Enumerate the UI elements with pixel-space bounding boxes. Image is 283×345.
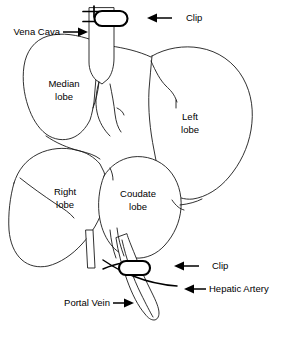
right-lobe-label-line2: lobe [56, 199, 74, 210]
clip-bottom-label: Clip [212, 260, 228, 271]
vena-cava-label: Vena Cava [14, 26, 61, 37]
clip-upper-shape [95, 11, 128, 26]
clip-top-arrowhead [147, 14, 157, 23]
portal-vein-label: Portal Vein [64, 297, 110, 308]
clip-bottom-annotation: Clip [174, 260, 228, 271]
clip-bottom-arrowhead [174, 262, 184, 271]
clip-top-annotation: Clip [147, 12, 202, 23]
vena-cava-branch-tick [117, 108, 124, 115]
median-lobe-label-line1: Median [48, 78, 79, 89]
hepatic-artery-arrowhead [184, 285, 194, 294]
hepatic-artery-annotation: Hepatic Artery [184, 283, 269, 294]
bile-duct-rect [86, 230, 95, 268]
clip-lower-shape [119, 261, 150, 275]
left-lobe-label-line1: Left [182, 111, 198, 122]
median-left-bridge [111, 46, 151, 57]
portal-vein-arrowhead [124, 299, 134, 308]
hepatic-artery-label: Hepatic Artery [209, 283, 269, 294]
coudate-lobe-label-line1: Coudate [120, 188, 156, 199]
left-lobe-label-line2: lobe [181, 124, 199, 135]
vena-cava-arrowhead [78, 28, 88, 37]
median-lobe-label-line2: lobe [55, 91, 73, 102]
vena-cava-annotation: Vena Cava [14, 26, 88, 37]
liver-diagram: Vena Cava Clip Clip Hepatic Artery Porta… [0, 0, 283, 345]
clip-top-label: Clip [186, 12, 202, 23]
vena-cava-branch-2 [110, 84, 121, 132]
coudate-left-connector [180, 199, 202, 205]
liver-diagram-canvas: Vena Cava Clip Clip Hepatic Artery Porta… [0, 0, 283, 345]
coudate-lobe-label-line2: lobe [129, 201, 147, 212]
right-lobe-label-line1: Right [54, 186, 77, 197]
portal-vein-annotation: Portal Vein [64, 297, 134, 308]
